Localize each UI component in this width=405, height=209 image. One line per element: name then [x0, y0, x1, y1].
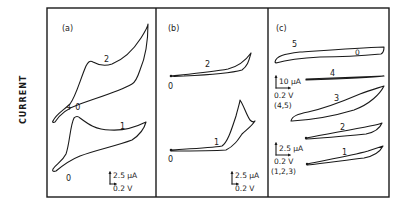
panel-c-curve-4-number: 4 — [330, 69, 335, 78]
svg-text:0.2 V: 0.2 V — [274, 91, 294, 100]
svg-text:(4,5): (4,5) — [274, 101, 292, 110]
panel-b-curve-2-zero: 0 — [168, 82, 173, 91]
panel-b: (b) 2 0 1 0 2.5 µA 0.2 V — [168, 24, 260, 193]
panel-c: (c) 5 0 4 3 2 1 10 µA 0.2 V (4,5) — [271, 24, 384, 176]
y-axis-label: CURRENT — [19, 75, 28, 124]
panel-b-label: (b) — [168, 24, 179, 33]
svg-text:0.2 V: 0.2 V — [274, 157, 294, 166]
svg-text:10 µA: 10 µA — [279, 77, 302, 86]
svg-text:(1,2,3): (1,2,3) — [271, 167, 296, 176]
panel-b-curve-2 — [171, 53, 251, 76]
panel-c-curve-5 — [275, 47, 384, 63]
panel-a-curve-1-zero: 0 — [66, 174, 71, 183]
panel-c-curve-5-zero: 0 — [355, 48, 360, 57]
svg-text:0.2 V: 0.2 V — [113, 184, 133, 193]
panel-a-curve-2-number: 2 — [104, 55, 109, 64]
panel-c-curve-5-number: 5 — [292, 40, 297, 49]
panel-c-curve-2-number: 2 — [340, 123, 345, 132]
panel-c-curve-3-number: 3 — [334, 94, 339, 103]
panel-a-curve-1-number: 1 — [120, 122, 125, 131]
panel-b-curve-2-number: 2 — [205, 60, 210, 69]
svg-text:2.5 µA: 2.5 µA — [235, 171, 260, 180]
panel-a-label: (a) — [62, 24, 73, 33]
panel-a-curve-2-zero: + 0 — [66, 103, 80, 112]
panel-b-curve-1 — [171, 100, 255, 151]
svg-text:0.2 V: 0.2 V — [235, 184, 255, 193]
panel-c-curve-4 — [306, 76, 384, 80]
svg-text:2.5 µA: 2.5 µA — [279, 144, 304, 153]
voltammogram-figure: CURRENT (a) 2 + 0 1 0 2.5 µA 0.2 V (b) 2… — [0, 0, 405, 209]
panel-b-scale-bar: 2.5 µA 0.2 V — [231, 171, 261, 193]
panel-c-curve-1-number: 1 — [342, 148, 347, 157]
panel-c-curve-3 — [291, 86, 384, 121]
panel-a-scale-bar: 2.5 µA 0.2 V — [109, 171, 139, 193]
panel-a-curve-1 — [53, 117, 146, 172]
svg-text:2.5 µA: 2.5 µA — [113, 171, 138, 180]
panel-a: (a) 2 + 0 1 0 2.5 µA 0.2 V — [53, 24, 148, 193]
panel-c-label: (c) — [276, 24, 287, 33]
panel-c-scale-bar-high: 10 µA 0.2 V (4,5) — [274, 75, 302, 110]
panel-c-scale-bar-low: 2.5 µA 0.2 V (1,2,3) — [271, 142, 304, 176]
panel-b-curve-1-number: 1 — [214, 138, 219, 147]
panel-b-curve-1-zero: 0 — [168, 155, 173, 164]
